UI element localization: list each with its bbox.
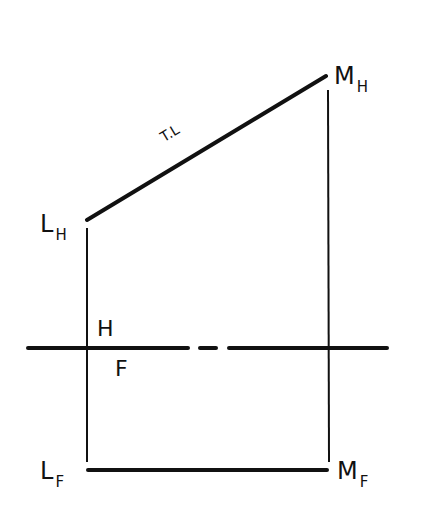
projector-m: [328, 90, 329, 462]
plane-label-h: H: [97, 318, 114, 340]
l-h-main: L: [40, 210, 53, 238]
l-h-sub: H: [55, 226, 66, 244]
point-label-l-f: LF: [40, 459, 64, 483]
point-label-m-f: MF: [337, 459, 368, 483]
true-length-line: [87, 76, 326, 220]
plane-label-f: F: [115, 358, 128, 380]
point-label-m-h: MH: [334, 64, 368, 88]
m-h-sub: H: [357, 78, 368, 96]
m-f-sub: F: [360, 473, 369, 491]
point-label-l-h: LH: [40, 212, 67, 236]
m-f-main: M: [337, 457, 358, 485]
l-f-main: L: [40, 457, 53, 485]
l-f-sub: F: [55, 473, 64, 491]
m-h-main: M: [334, 62, 355, 90]
